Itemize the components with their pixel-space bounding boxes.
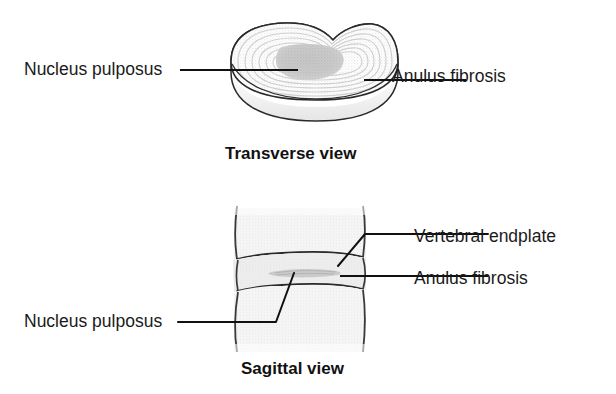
label-anulus-fibrosis-transverse: Anulus fibrosis xyxy=(392,68,506,86)
caption-transverse-view: Transverse view xyxy=(225,145,356,162)
caption-sagittal-view: Sagittal view xyxy=(241,360,344,377)
column-top-fade xyxy=(230,205,370,215)
anatomy-figure: Nucleus pulposus Anulus fibrosis Transve… xyxy=(0,0,616,394)
label-anulus-fibrosis-sagittal: Anulus fibrosis xyxy=(414,270,528,288)
label-vertebral-endplate-sagittal: Vertebral endplate xyxy=(414,228,556,246)
label-nucleus-pulposus-transverse: Nucleus pulposus xyxy=(24,61,162,79)
column-bottom-fade xyxy=(230,344,370,356)
label-nucleus-pulposus-sagittal: Nucleus pulposus xyxy=(24,313,162,331)
